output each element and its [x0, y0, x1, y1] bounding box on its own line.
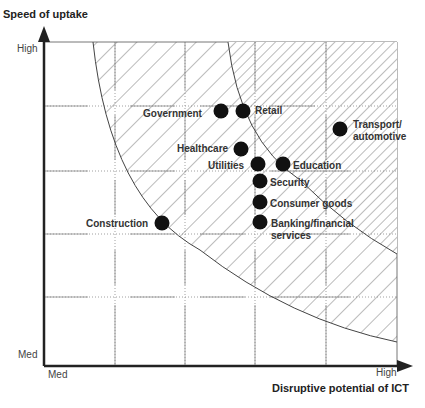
- label-transport-line2: automotive: [353, 131, 407, 142]
- point-transport[interactable]: [333, 122, 348, 137]
- point-retail[interactable]: [236, 104, 251, 119]
- label-retail: Retail: [255, 105, 282, 116]
- point-utilities[interactable]: [251, 157, 266, 172]
- y-tick-high: High: [17, 43, 38, 54]
- point-construction[interactable]: [155, 216, 170, 231]
- label-utilities: Utilities: [208, 160, 245, 171]
- label-government: Government: [143, 108, 203, 119]
- y-axis-arrow-icon: [38, 26, 50, 42]
- point-education[interactable]: [276, 157, 291, 172]
- point-security[interactable]: [253, 174, 268, 189]
- chart: Speed of uptake Disruptive potential of …: [0, 0, 425, 408]
- y-axis-title: Speed of uptake: [3, 8, 88, 20]
- x-axis-arrow-icon: [397, 360, 413, 372]
- x-axis-title: Disruptive potential of ICT: [272, 382, 409, 394]
- label-construction: Construction: [86, 218, 148, 229]
- label-consumer-goods: Consumer goods: [270, 198, 353, 209]
- label-banking-line1: Banking/financial: [271, 218, 354, 229]
- x-tick-high: High: [376, 367, 397, 378]
- label-security: Security: [270, 177, 310, 188]
- label-education: Education: [293, 160, 341, 171]
- label-healthcare: Healthcare: [177, 143, 229, 154]
- label-transport-line1: Transport/: [353, 119, 402, 130]
- point-banking[interactable]: [253, 215, 268, 230]
- point-consumer-goods[interactable]: [253, 195, 268, 210]
- label-banking-line2: services: [271, 230, 311, 241]
- y-tick-med: Med: [18, 349, 37, 360]
- x-tick-med: Med: [48, 369, 67, 380]
- point-healthcare[interactable]: [234, 142, 249, 157]
- point-government[interactable]: [214, 104, 229, 119]
